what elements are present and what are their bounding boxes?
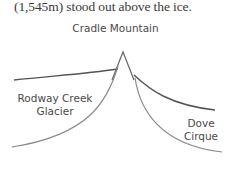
left-label-line-2: Glacier xyxy=(10,105,100,118)
right-label-line-2: Cirque xyxy=(176,130,226,143)
right-label-line-1: Dove xyxy=(176,117,226,130)
right-glacier-label: Dove Cirque xyxy=(176,117,226,143)
glacier-diagram xyxy=(0,0,231,174)
right-ridge-line xyxy=(134,75,215,110)
left-glacier-label: Rodway Creek Glacier xyxy=(10,92,100,118)
left-label-line-1: Rodway Creek xyxy=(10,92,100,105)
left-ridge-line xyxy=(14,69,118,80)
